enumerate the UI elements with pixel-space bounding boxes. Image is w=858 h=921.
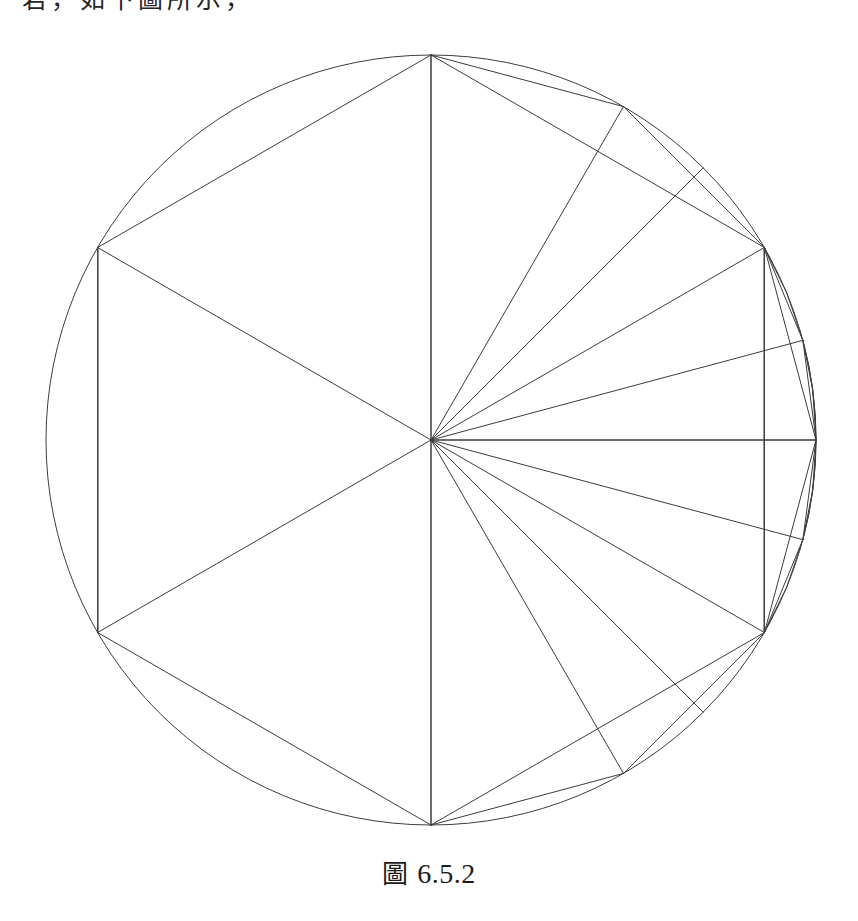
12-gon-side [431,55,624,107]
radius [431,440,703,712]
hexagon-side [98,55,431,248]
diagram-strokes [46,55,816,825]
geometry-figure [0,28,858,848]
radius [98,248,431,441]
48-gon-side [787,293,803,341]
caption-number: 6.5.2 [417,858,476,889]
radius [431,440,803,540]
12-gon-side [431,773,624,825]
radius [431,340,803,440]
radius [431,107,624,440]
top-running-text: 若，如下圖所示， [22,0,254,15]
circle-polygon-diagram [0,28,858,848]
48-gon-side [764,587,786,632]
radius [431,440,764,633]
figure-page: 若，如下圖所示， 圖6.5.2 [0,0,858,921]
24-gon-side [764,248,802,341]
radius [98,440,431,633]
24-gon-side [764,540,802,633]
24-gon-side [803,340,816,440]
48-gon-side [764,248,786,293]
hexagon-side [98,633,431,826]
24-gon-side [803,440,816,540]
radius [431,440,624,773]
radius [431,248,764,441]
radius [431,168,703,440]
figure-caption: 圖6.5.2 [0,853,858,890]
48-gon-side [787,540,803,588]
caption-label: 圖 [382,859,408,889]
